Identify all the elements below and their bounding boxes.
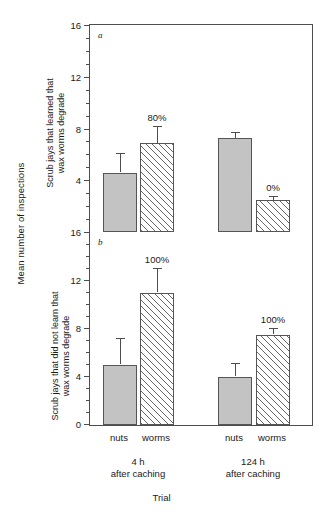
y-tick-mark [86, 316, 90, 317]
y-tick-label-a-16: 16 [70, 20, 81, 31]
y-tick-mark [86, 141, 90, 142]
y-tick-mark [86, 219, 90, 220]
bar-a-worms-1 [140, 143, 174, 232]
panel-b-y-axis-title: Scrub jays that did not learn that wax w… [50, 256, 72, 456]
y-tick-mark [86, 400, 90, 401]
y-tick-mark [86, 364, 90, 365]
bar-a-nuts-0 [103, 173, 137, 233]
xtick-label-nuts-4h: nuts [110, 432, 128, 443]
y-tick-label-a-4: 4 [76, 175, 81, 186]
percent-annotation-b-1: 100% [145, 254, 169, 265]
y-tick-mark [86, 64, 90, 65]
error-bar-cap-b-2 [231, 363, 240, 364]
y-tick-mark [86, 116, 90, 117]
error-bar-cap-b-1 [153, 268, 162, 269]
y-tick-mark [84, 25, 90, 26]
y-tick-mark [84, 129, 90, 130]
bar-hatch-pattern [257, 201, 289, 231]
panel-b-letter: b [98, 237, 103, 247]
y-tick-mark [86, 340, 90, 341]
error-bar-cap-b-0 [116, 338, 125, 339]
y-tick-mark [84, 280, 90, 281]
y-tick-mark [86, 268, 90, 269]
error-bar-cap-a-1 [153, 126, 162, 127]
panel-b-plot-area: b 0481216100%100% [89, 232, 313, 426]
y-tick-label-b-0: 0 [76, 419, 81, 430]
bar-b-nuts-0 [103, 365, 137, 425]
y-tick-label-a-8: 8 [76, 123, 81, 134]
error-bar-b-2 [235, 363, 236, 376]
y-tick-label-b-12: 12 [70, 275, 81, 286]
error-bar-cap-a-0 [116, 153, 125, 154]
xgroup-4h-line2: after caching [111, 468, 165, 479]
y-tick-mark [86, 193, 90, 194]
y-tick-mark [86, 51, 90, 52]
error-bar-b-1 [157, 268, 158, 292]
error-bar-cap-b-3 [269, 328, 278, 329]
panel-a-y-title-line2: wax worms degrade [56, 93, 66, 174]
bar-b-worms-3 [256, 335, 290, 425]
y-tick-mark [86, 154, 90, 155]
y-tick-mark [84, 328, 90, 329]
panel-a-y-title-line1: Scrub jays that learned that [45, 78, 55, 188]
xgroup-124h-line1: 124 h [241, 456, 265, 467]
bar-b-nuts-2 [218, 377, 252, 425]
y-tick-mark [86, 103, 90, 104]
xgroup-label-4h: 4 h after caching [111, 456, 165, 480]
outer-y-axis-title: Mean number of inspections [15, 124, 26, 324]
xtick-label-nuts-124h: nuts [225, 432, 243, 443]
y-tick-mark [86, 90, 90, 91]
panel-b-y-title-line1: Scrub jays that did not learn that [50, 291, 60, 420]
bar-a-nuts-2 [218, 138, 252, 232]
percent-annotation-a-3: 0% [266, 182, 280, 193]
y-tick-mark [84, 77, 90, 78]
error-bar-a-1 [157, 126, 158, 143]
y-tick-mark [86, 167, 90, 168]
xgroup-4h-line1: 4 h [131, 456, 144, 467]
y-tick-label-b-4: 4 [76, 371, 81, 382]
y-tick-mark [86, 206, 90, 207]
y-tick-mark [86, 292, 90, 293]
panel-a-letter: a [98, 30, 103, 40]
y-tick-mark [86, 244, 90, 245]
panel-a-y-axis-title: Scrub jays that learned that wax worms d… [45, 33, 67, 233]
bar-hatch-pattern [141, 294, 173, 424]
y-tick-mark [84, 424, 90, 425]
percent-annotation-b-3: 100% [261, 314, 285, 325]
figure-container: Mean number of inspections a 48121680%0%… [0, 0, 323, 515]
y-tick-mark [86, 304, 90, 305]
panel-b-y-title-line2: wax worms degrade [61, 316, 71, 397]
error-bar-cap-a-2 [231, 132, 240, 133]
y-tick-label-b-16: 16 [70, 227, 81, 238]
y-tick-mark [84, 180, 90, 181]
error-bar-cap-a-3 [269, 196, 278, 197]
y-tick-mark [86, 388, 90, 389]
y-tick-label-b-8: 8 [76, 323, 81, 334]
y-tick-mark [86, 38, 90, 39]
bar-b-worms-1 [140, 293, 174, 425]
error-bar-b-0 [120, 338, 121, 364]
y-tick-mark [86, 256, 90, 257]
y-tick-mark [84, 376, 90, 377]
y-tick-mark [86, 352, 90, 353]
bar-a-worms-3 [256, 200, 290, 232]
bar-hatch-pattern [257, 336, 289, 424]
percent-annotation-a-1: 80% [147, 112, 166, 123]
panel-a-plot-area: a 48121680%0% [89, 24, 313, 233]
y-tick-label-a-12: 12 [70, 71, 81, 82]
y-tick-mark [84, 232, 90, 233]
xgroup-124h-line2: after caching [226, 468, 280, 479]
y-tick-mark [86, 412, 90, 413]
xtick-label-worms-124h: worms [258, 432, 286, 443]
error-bar-a-0 [120, 153, 121, 172]
xtick-label-worms-4h: worms [142, 432, 170, 443]
x-axis-title: Trial [0, 492, 323, 503]
xgroup-label-124h: 124 h after caching [226, 456, 280, 480]
bar-hatch-pattern [141, 144, 173, 231]
